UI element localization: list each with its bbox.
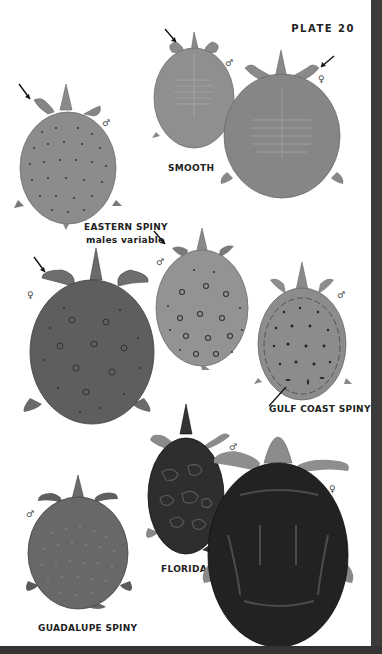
label-smooth: SMOOTH <box>168 163 214 173</box>
sex-symbol-female: ♀ <box>329 484 336 494</box>
florida-female-illustration <box>200 415 360 649</box>
sex-symbol-female: ♀ <box>27 290 34 300</box>
sex-symbol-male: ♂ <box>102 118 110 128</box>
eastern-spiny-male-illustration <box>12 82 124 230</box>
sex-symbol-female: ♀ <box>318 74 325 84</box>
eastern-spiny-male-arrow <box>17 82 33 102</box>
label-gulf-coast-spiny: GULF COAST SPINY <box>269 404 371 414</box>
eastern-spiny-male-variant-illustration <box>150 226 250 376</box>
smooth-male-arrow <box>163 27 179 45</box>
page-edge-right <box>371 0 382 654</box>
plate-page: PLATE 20 ♂ SMOOTH <box>0 0 371 646</box>
label-guadalupe-spiny: GUADALUPE SPINY <box>38 623 137 633</box>
sex-symbol-male: ♂ <box>337 290 345 300</box>
page-edge-bottom <box>0 646 382 654</box>
guadalupe-spiny-illustration <box>22 473 137 618</box>
sex-symbol-male: ♂ <box>26 509 34 519</box>
smooth-female-arrow <box>318 54 336 70</box>
eastern-spiny-female-illustration <box>20 248 155 428</box>
sex-symbol-male: ♂ <box>156 257 164 267</box>
smooth-female-illustration <box>215 48 350 198</box>
eastern-spiny-female-arrow <box>32 255 48 275</box>
eastern-spiny-male-variant-arrow <box>152 229 168 247</box>
plate-number: PLATE 20 <box>291 23 355 34</box>
